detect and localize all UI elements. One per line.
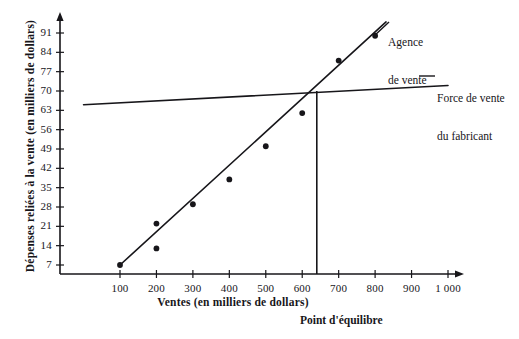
series-label-manufacturer-line1: Force de vente — [437, 92, 505, 105]
x-tick-label: 500 — [246, 282, 286, 294]
data-point — [336, 58, 342, 64]
data-point — [372, 33, 378, 39]
series-label-agency-line2: de vente — [388, 74, 427, 87]
x-tick-label: 300 — [173, 282, 213, 294]
y-axis-title: Dépenses reliées à la vente (en milliers… — [24, 15, 37, 277]
x-tick-label: 600 — [282, 282, 322, 294]
x-axis-title: Ventes (en milliers de dollars) — [108, 296, 358, 309]
x-axis-arrowhead — [455, 270, 464, 277]
data-point — [117, 262, 123, 268]
series-label-agency: Agence de vente — [388, 10, 427, 113]
x-tick-label: 800 — [355, 282, 395, 294]
data-point — [299, 110, 305, 116]
data-point — [190, 201, 196, 207]
x-tick-label: 100 — [100, 282, 140, 294]
data-point — [154, 221, 160, 227]
chart-container: 7142128354249566370778491100200300400500… — [0, 0, 519, 339]
x-tick-label: 700 — [319, 282, 359, 294]
series-label-manufacturer: Force de vente du fabricant — [437, 66, 505, 169]
x-tick-label: 400 — [209, 282, 249, 294]
data-point — [263, 143, 269, 149]
x-tick-label: 900 — [392, 282, 432, 294]
data-point — [154, 246, 160, 252]
series-label-agency-line1: Agence — [388, 36, 427, 49]
y-axis-arrowhead — [56, 12, 63, 21]
series-label-manufacturer-line2: du fabricant — [437, 130, 505, 143]
trend-line — [120, 22, 386, 265]
x-tick-label: 200 — [136, 282, 176, 294]
data-point — [226, 176, 232, 182]
x-tick-label: 1 000 — [428, 282, 468, 294]
equilibrium-point-label: Point d'équilibre — [300, 314, 383, 327]
